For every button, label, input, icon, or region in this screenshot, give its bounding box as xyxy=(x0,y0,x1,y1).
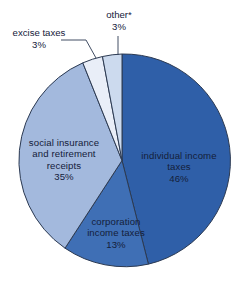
slice-label-corporation-income-taxes: corporation income taxes 13% xyxy=(68,216,164,250)
slice-value-social-insurance-and-retirement-receipts: 35% xyxy=(12,171,116,182)
footnote-text xyxy=(3,279,5,283)
slice-label-line-2: taxes xyxy=(167,161,190,172)
slice-label-line-1: corporation xyxy=(91,216,140,227)
slice-label-line-3: receipts xyxy=(47,160,81,171)
slice-value-corporation-income-taxes: 13% xyxy=(68,239,164,250)
slice-label-other: other* 3% xyxy=(90,9,148,32)
slice-value-excise-taxes: 3% xyxy=(3,39,75,51)
pie-chart: individual income taxes 46% social insur… xyxy=(0,0,249,285)
slice-value-individual-income-taxes: 46% xyxy=(131,173,227,184)
slice-label-social-insurance-and-retirement-receipts: social insurance and retirement receipts… xyxy=(12,137,116,182)
slice-label-individual-income-taxes: individual income taxes 46% xyxy=(131,150,227,184)
slice-label-line-2: and retirement xyxy=(32,148,95,159)
slice-label-line-2: income taxes xyxy=(87,227,145,238)
leader-line-excise-taxes-diagonal xyxy=(86,40,96,58)
slice-value-other: 3% xyxy=(90,21,148,33)
slice-label-line-1: individual income xyxy=(141,150,216,161)
footnote-strip xyxy=(0,279,249,285)
slice-label-line-1: other* xyxy=(106,9,132,20)
slice-label-line-1: excise taxes xyxy=(13,27,66,38)
slice-label-excise-taxes: excise taxes 3% xyxy=(3,27,75,50)
slice-label-line-1: social insurance xyxy=(29,137,99,148)
